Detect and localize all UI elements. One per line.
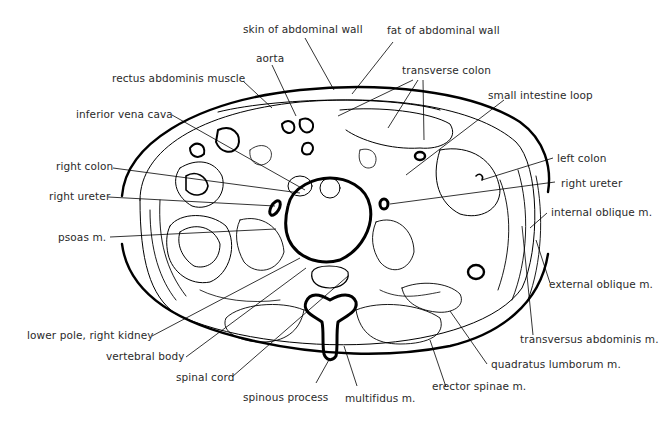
psoas-left (373, 220, 414, 270)
label-rectus-abdominis: rectus abdominis muscle (112, 72, 245, 84)
right-ureter-left (268, 199, 283, 217)
label-right-colon: right colon (56, 160, 113, 172)
rectus-muscle (218, 100, 440, 112)
label-small-intestine-loop: small intestine loop (488, 89, 593, 101)
quadratus-lumborum (402, 283, 461, 312)
psoas-right (237, 218, 284, 270)
fascia-line (140, 100, 535, 345)
label-erector-spinae: erector spinae m. (432, 380, 526, 392)
right-kidney (167, 216, 232, 283)
label-transverse-colon: transverse colon (402, 64, 491, 76)
label-transversus-abdominis: transversus abdominis m. (520, 333, 659, 345)
label-quadratus-lumborum: quadratus lumborum m. (491, 358, 621, 370)
vertebral-body (286, 178, 371, 262)
label-fat-of-abdominal-wall: fat of abdominal wall (387, 24, 500, 36)
anatomy-diagram: skin of abdominal wall fat of abdominal … (0, 0, 672, 424)
label-psoas: psoas m. (58, 231, 106, 243)
label-left-colon: left colon (557, 152, 607, 164)
label-spinous-process: spinous process (243, 391, 328, 403)
label-right-ureter-right: right ureter (561, 177, 622, 189)
aorta (320, 178, 340, 198)
label-aorta: aorta (256, 52, 284, 64)
label-right-ureter-left: right ureter (49, 190, 110, 202)
label-external-oblique: external oblique m. (549, 278, 653, 290)
spinal-canal (312, 266, 349, 288)
label-internal-oblique: internal oblique m. (551, 206, 652, 218)
label-inferior-vena-cava: inferior vena cava (76, 108, 173, 120)
right-ureter-right (380, 199, 388, 209)
label-skin-of-abdominal-wall: skin of abdominal wall (243, 23, 363, 35)
label-spinal-cord: spinal cord (176, 371, 235, 383)
small-intestine-loop (415, 152, 425, 160)
label-multifidus: multifidus m. (345, 392, 415, 404)
label-lower-pole-right-kidney: lower pole, right kidney (27, 329, 154, 341)
left-colon (436, 149, 500, 216)
right-colon (176, 162, 224, 207)
label-vertebral-body: vertebral body (106, 350, 185, 362)
